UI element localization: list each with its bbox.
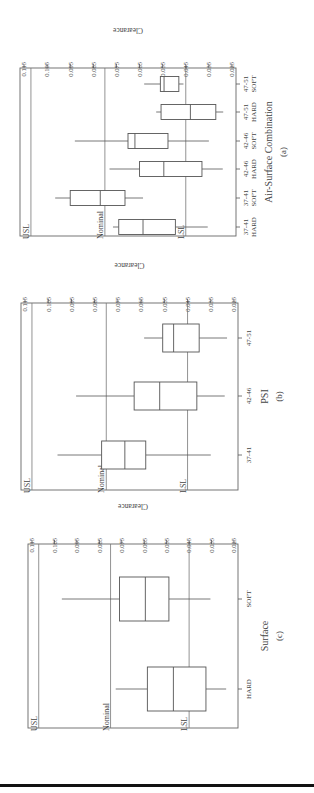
y-tick-label: 0.085 <box>91 297 98 312</box>
y-axis-title: Clearance <box>117 502 148 511</box>
y-tick-label: 0.085 <box>90 62 97 77</box>
reference-label-usl: USL <box>30 716 39 731</box>
y-tick-label: 0.065 <box>137 297 144 312</box>
category-label-line2: HARD <box>250 217 258 237</box>
y-axis-title: Clearance <box>114 261 145 270</box>
x-axis-title: Surface <box>259 620 270 651</box>
y-tick-label: 0.055 <box>159 62 166 77</box>
iqr-box <box>128 134 168 149</box>
y-tick-label: 0.025 <box>228 62 235 77</box>
y-tick-label: 0.035 <box>205 62 212 77</box>
y-tick-label: 0.105 <box>51 538 58 553</box>
y-tick-label: 0.105 <box>45 297 52 312</box>
y-tick-label: 0.115 <box>28 538 35 552</box>
iqr-box <box>160 77 178 92</box>
x-axis-title: PSI <box>259 389 270 403</box>
category-label-line2: SOFT <box>250 189 258 207</box>
y-axis-title: Clearance <box>112 26 143 35</box>
iqr-box <box>147 667 206 711</box>
category-label-line1: 47-51 <box>242 103 250 120</box>
y-tick-label: 0.095 <box>67 62 74 77</box>
y-tick-label: 0.105 <box>43 62 50 77</box>
reference-label-nominal: Nominal <box>96 210 105 239</box>
reference-label-usl: USL <box>23 478 32 493</box>
category-label: 47-51 <box>245 329 253 346</box>
iqr-box <box>70 191 125 206</box>
y-tick-label: 0.095 <box>73 538 80 553</box>
y-tick-label: 0.065 <box>141 538 148 553</box>
category-label: 37-41 <box>245 446 253 463</box>
y-tick-label: 0.085 <box>96 538 103 553</box>
y-tick-label: 0.055 <box>161 297 168 312</box>
y-tick-label: 0.025 <box>230 297 237 312</box>
panel-label: (c) <box>274 631 284 641</box>
category-label-line2: SOFT <box>250 75 258 93</box>
reference-label-usl: USL <box>22 224 31 239</box>
y-tick-label: 0.075 <box>113 62 120 77</box>
bottom-rule <box>0 784 314 787</box>
category-label: SOFT <box>245 590 253 608</box>
plot-frame-a <box>20 68 236 236</box>
figure-box-plots: 0.1150.1050.0950.0850.0750.0650.0550.045… <box>0 0 314 793</box>
iqr-box <box>102 441 146 469</box>
y-tick-label: 0.115 <box>20 62 27 76</box>
reference-label-lsl: LSL <box>179 479 188 493</box>
iqr-box <box>120 577 169 621</box>
category-label-line1: 47-51 <box>242 75 250 92</box>
y-tick-label: 0.035 <box>207 297 214 312</box>
category-label-line1: 42-46 <box>242 160 250 177</box>
category-label-line1: 42-46 <box>242 132 250 149</box>
y-tick-label: 0.035 <box>208 538 215 553</box>
iqr-box <box>161 105 216 120</box>
category-label-line1: 37-41 <box>242 218 250 235</box>
iqr-box <box>119 220 176 235</box>
y-tick-label: 0.025 <box>230 538 237 553</box>
iqr-box <box>163 324 199 352</box>
category-label-line2: HARD <box>250 102 258 122</box>
panel-label: (b) <box>274 391 284 402</box>
reference-label-lsl: LSL <box>180 717 189 731</box>
panel-label: (a) <box>278 147 288 157</box>
x-axis-title: Air-Surface Combination <box>263 101 274 203</box>
category-label-line1: 37-41 <box>242 189 250 206</box>
category-label-line2: SOFT <box>250 132 258 150</box>
reference-label-nominal: Nominal <box>102 702 111 731</box>
y-tick-label: 0.075 <box>114 297 121 312</box>
y-tick-label: 0.065 <box>136 62 143 77</box>
iqr-box <box>134 382 197 410</box>
category-label-line2: HARD <box>250 159 258 179</box>
plot-frame-c <box>28 544 238 728</box>
category-label: HARD <box>245 679 253 699</box>
y-tick-label: 0.075 <box>118 538 125 553</box>
category-label: 42-46 <box>245 387 253 404</box>
y-tick-label: 0.115 <box>21 297 28 311</box>
iqr-box <box>140 162 202 177</box>
y-tick-label: 0.055 <box>163 538 170 553</box>
y-tick-label: 0.095 <box>68 297 75 312</box>
